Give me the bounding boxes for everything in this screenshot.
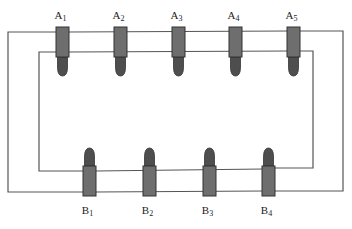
connector-tip (116, 57, 126, 76)
connector-label-subscript: 2 (120, 14, 124, 23)
connector-a2: A2 (113, 9, 127, 76)
connector-b2: B2 (142, 148, 156, 218)
connector-body (114, 27, 127, 57)
connector-label: A5 (286, 9, 298, 23)
connector-tip (205, 148, 215, 166)
connector-label: A3 (171, 9, 183, 23)
connector-tip (85, 148, 95, 166)
circuit-diagram: A1A2A3A4A5 B1B2B3B4 (0, 0, 352, 229)
connector-label: A1 (55, 9, 67, 23)
connector-label-subscript: 4 (235, 14, 239, 23)
connector-body (83, 166, 96, 196)
bottom-connectors: B1B2B3B4 (82, 148, 275, 218)
connector-a3: A3 (171, 9, 185, 76)
connector-label-subscript: 2 (149, 209, 153, 218)
connector-label: B3 (202, 204, 213, 218)
connector-body (229, 27, 242, 57)
outer-wire-loop (8, 32, 85, 192)
connector-tip (58, 57, 68, 76)
connector-label-subscript: 3 (178, 14, 182, 23)
connector-b3: B3 (202, 148, 216, 218)
connector-tip (145, 148, 155, 166)
connector-label-subscript: 1 (89, 209, 93, 218)
connector-label: A4 (228, 9, 240, 23)
connector-label-subscript: 3 (209, 209, 213, 218)
outer-wire-right (274, 31, 343, 191)
connector-body (287, 27, 300, 57)
connector-tip (264, 148, 274, 166)
connector-tip (231, 57, 241, 76)
connector-label: B1 (82, 204, 93, 218)
inner-wire-bottom (95, 169, 264, 171)
connector-a5: A5 (286, 9, 300, 76)
connector-body (143, 166, 156, 196)
connector-label-subscript: 1 (62, 14, 66, 23)
top-connectors: A1A2A3A4A5 (55, 9, 300, 76)
outer-wire-bottom (95, 191, 264, 192)
connector-body (56, 27, 69, 57)
connector-label-subscript: 4 (268, 209, 272, 218)
connector-label: A2 (113, 9, 125, 23)
connector-tip (174, 57, 184, 76)
connector-label: B2 (142, 204, 153, 218)
connector-body (172, 27, 185, 57)
connector-a1: A1 (55, 9, 69, 76)
connector-body (203, 166, 216, 196)
connector-body (262, 166, 275, 196)
connector-tip (289, 57, 299, 76)
connector-b4: B4 (261, 148, 275, 218)
connector-label: B4 (261, 204, 272, 218)
connector-label-subscript: 5 (293, 14, 297, 23)
connector-b1: B1 (82, 148, 96, 218)
connector-a4: A4 (228, 9, 242, 76)
